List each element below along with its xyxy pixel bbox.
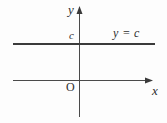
- x-axis-label: x: [152, 84, 158, 97]
- y-axis-arrowhead-icon: [77, 6, 83, 14]
- coordinate-plane-figure: y x O c y = c: [0, 0, 167, 123]
- equation-annotation: y = c: [113, 27, 140, 39]
- y-axis-label: y: [68, 3, 74, 16]
- y-intercept-label-c: c: [69, 30, 74, 41]
- origin-label: O: [66, 81, 75, 93]
- plot-svg: [0, 0, 167, 123]
